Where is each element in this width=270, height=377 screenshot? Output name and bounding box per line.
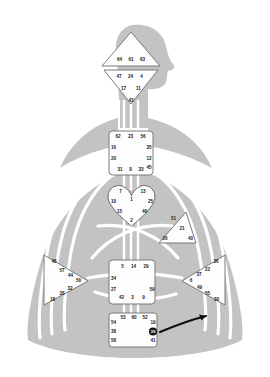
gate-33[interactable]: 33 (138, 167, 144, 172)
gate-11[interactable]: 11 (136, 86, 141, 91)
gate-19[interactable]: 19 (150, 320, 156, 325)
gate-17[interactable]: 17 (121, 86, 127, 91)
gate-9[interactable]: 9 (142, 295, 145, 300)
gate-61[interactable]: 61 (128, 57, 134, 62)
gate-35[interactable]: 35 (146, 145, 152, 150)
gate-54[interactable]: 54 (111, 320, 117, 325)
gate-18[interactable]: 18 (50, 297, 56, 302)
gate-58[interactable]: 58 (111, 338, 117, 343)
gate-7[interactable]: 7 (119, 189, 122, 194)
gate-51[interactable]: 51 (171, 216, 177, 221)
gate-26[interactable]: 26 (162, 236, 168, 241)
gate-50[interactable]: 50 (76, 278, 82, 283)
gate-6[interactable]: 6 (190, 278, 193, 283)
gate-4[interactable]: 4 (140, 74, 143, 79)
gate-45[interactable]: 45 (146, 165, 152, 170)
gate-55[interactable]: 55 (205, 291, 211, 296)
gate-16[interactable]: 16 (111, 145, 117, 150)
gate-2[interactable]: 2 (130, 218, 133, 223)
gate-1[interactable]: 1 (130, 197, 133, 202)
gate-52[interactable]: 52 (142, 315, 148, 320)
gate-62[interactable]: 62 (115, 134, 121, 139)
gate-20[interactable]: 20 (111, 156, 117, 161)
gate-10[interactable]: 10 (111, 199, 117, 204)
gate-13[interactable]: 13 (140, 189, 146, 194)
gate-22[interactable]: 22 (205, 267, 211, 272)
gate-34[interactable]: 34 (111, 276, 117, 281)
human-design-bodygraph: 6461634724417114362235616352012453183371… (0, 0, 270, 377)
gate-60[interactable]: 60 (131, 315, 137, 320)
gate-3[interactable]: 3 (131, 295, 134, 300)
gate-43[interactable]: 43 (128, 98, 134, 103)
gate-59[interactable]: 59 (149, 287, 155, 292)
gate-15[interactable]: 15 (117, 209, 123, 214)
gate-57[interactable]: 57 (59, 268, 65, 273)
gate-32[interactable]: 32 (67, 286, 73, 291)
gate-63[interactable]: 63 (140, 57, 146, 62)
gate-38[interactable]: 38 (111, 329, 117, 334)
gate-30[interactable]: 30 (214, 297, 220, 302)
gate-48[interactable]: 48 (51, 259, 57, 264)
gate-40[interactable]: 40 (188, 236, 194, 241)
gate-39[interactable]: 39 (151, 329, 156, 334)
gate-42[interactable]: 42 (119, 295, 125, 300)
bodygraph-canvas: 6461634724417114362235616352012453183371… (0, 0, 270, 377)
gate-53[interactable]: 53 (120, 315, 126, 320)
gate-31[interactable]: 31 (117, 167, 123, 172)
gate-8[interactable]: 8 (129, 167, 132, 172)
gate-28[interactable]: 28 (59, 291, 65, 296)
gate-64[interactable]: 64 (117, 57, 123, 62)
gate-21[interactable]: 21 (179, 226, 185, 231)
gate-49[interactable]: 49 (197, 285, 203, 290)
gate-27[interactable]: 27 (111, 287, 117, 292)
gate-12[interactable]: 12 (146, 156, 152, 161)
gate-5[interactable]: 5 (121, 264, 124, 269)
gate-41[interactable]: 41 (150, 338, 156, 343)
gate-44[interactable]: 44 (68, 273, 74, 278)
gate-25[interactable]: 25 (148, 199, 154, 204)
gate-29[interactable]: 29 (143, 264, 149, 269)
gate-24[interactable]: 24 (128, 74, 134, 79)
gate-14[interactable]: 14 (131, 264, 137, 269)
gate-23[interactable]: 23 (128, 134, 134, 139)
gate-37[interactable]: 37 (196, 272, 202, 277)
gate-36[interactable]: 36 (213, 259, 219, 264)
gate-47[interactable]: 47 (116, 74, 122, 79)
gate-56[interactable]: 56 (140, 134, 146, 139)
gate-46[interactable]: 46 (142, 209, 148, 214)
